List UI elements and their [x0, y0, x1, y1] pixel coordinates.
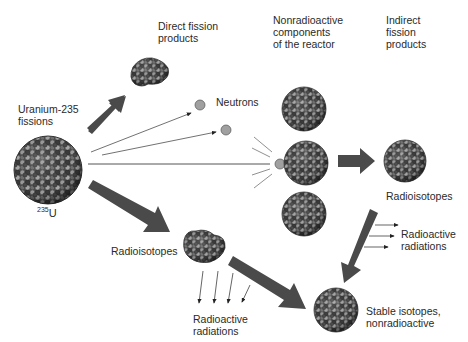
label-radioisotopes-left: Radioisotopes [111, 245, 178, 257]
neutron-3 [275, 159, 285, 169]
indirect-radioisotope-nucleus [384, 140, 426, 182]
label-stable-isotopes: Stable isotopes, nonradioactive [366, 305, 441, 329]
reactor-component-nucleus-middle [284, 141, 328, 185]
arrow-radioisotope-to-stable [228, 256, 306, 309]
uranium-235-nucleus [14, 136, 82, 204]
label-u235-symbol: 235U [37, 207, 57, 219]
direct-fission-product-nucleus [131, 58, 169, 86]
radiation-arrows-bottom [199, 271, 250, 303]
arrow-indirect-to-stable [341, 209, 378, 283]
fission-diagram [0, 0, 468, 342]
neutron-1 [195, 100, 205, 110]
label-uranium-235-fissions: Uranium-235 fissions [18, 103, 79, 127]
label-radioisotopes-right: Radioisotopes [386, 190, 453, 202]
label-direct-fission-products: Direct fission products [158, 20, 218, 44]
u235-mass-number: 235 [37, 206, 49, 213]
reactor-component-nucleus-top [282, 87, 326, 131]
reactor-component-nucleus-bottom [282, 192, 326, 236]
arrow-to-indirect-radioisotope [338, 148, 375, 174]
label-radioactive-radiations-bottom: Radioactive radiations [193, 313, 248, 337]
arrow-to-radioisotopes [88, 180, 170, 232]
radioisotope-nucleus-left [184, 230, 225, 262]
label-neutrons: Neutrons [216, 96, 259, 108]
impact-burst-lines [252, 137, 272, 188]
label-indirect-fission-products: Indirect fission products [386, 14, 426, 50]
stable-isotope-nucleus [314, 288, 358, 332]
neutron-paths [88, 113, 270, 164]
u235-element-symbol: U [49, 207, 57, 219]
label-radioactive-radiations-right: Radioactive radiations [401, 228, 456, 252]
label-nonradioactive-components: Nonradioactive components of the reactor [273, 14, 343, 50]
neutron-2 [221, 125, 231, 135]
